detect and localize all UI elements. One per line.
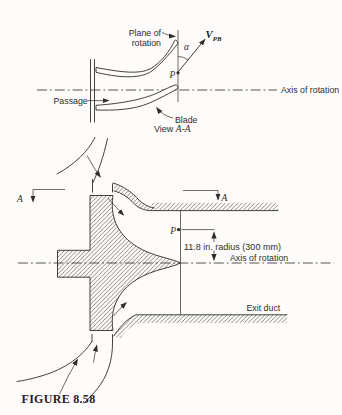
point-p-label-top: P: [168, 70, 175, 80]
plane-of-rotation-label-line1: Plane of: [129, 28, 162, 38]
radius-dimension-label: 11.8 in. radius (300 mm): [184, 242, 281, 252]
angle-arc: [178, 56, 188, 60]
angle-alpha-label: α: [184, 42, 190, 52]
exit-duct-upper-wall-hatch: [152, 203, 278, 211]
point-p-dot-bottom: [177, 228, 180, 231]
upper-inlet-outer-curve: [57, 138, 95, 175]
plane-of-rotation-leader: [162, 33, 175, 37]
section-letter-left: A: [16, 194, 23, 204]
axis-of-rotation-label-bottom: Axis of rotation: [230, 253, 288, 263]
figure-page: Plane of rotation V PB α P Axis of rotat…: [0, 0, 342, 415]
plane-of-rotation-label-line2: rotation: [132, 38, 161, 48]
upper-inlet-throat-lines: [93, 180, 113, 193]
exit-duct-label: Exit duct: [247, 303, 281, 313]
point-p-dot-top: [176, 71, 179, 74]
exit-duct-lower-wall-hatch: [114, 315, 287, 339]
hub-lines: [91, 60, 95, 123]
axis-of-rotation-label-top: Axis of rotation: [281, 85, 339, 95]
passage-label: Passage: [54, 96, 88, 106]
point-p-label-bottom: P: [169, 226, 176, 236]
section-mark-left: [33, 190, 65, 202]
blade-leader-arrow: [157, 108, 173, 118]
section-letter-right: A: [221, 193, 228, 203]
figure-caption: FIGURE 8.58: [22, 392, 96, 406]
blade-view-diagram: Plane of rotation V PB α P Axis of rotat…: [37, 28, 339, 134]
figure-canvas: Plane of rotation V PB α P Axis of rotat…: [0, 0, 342, 415]
velocity-vector-arrow: [179, 39, 205, 71]
section-mark-right: [183, 191, 218, 200]
view-label-section: A-A: [175, 124, 191, 134]
lower-inlet-throat-lines: [92, 335, 113, 342]
lower-blade-shape: [96, 85, 178, 110]
velocity-subscript: PB: [213, 35, 222, 42]
fan-section-diagram: A A P 11.8 in. radius (300 mm) Axis of r…: [16, 138, 334, 404]
lower-inlet-outer-curve: [17, 342, 92, 382]
lower-inlet-flow-arrow-short: [94, 346, 97, 363]
view-aa-label: View A-A: [154, 124, 191, 134]
lower-inlet-flow-arrow-long: [60, 360, 78, 395]
view-label-prefix: View: [154, 124, 176, 134]
upper-inlet-flow-arrow: [87, 156, 100, 178]
